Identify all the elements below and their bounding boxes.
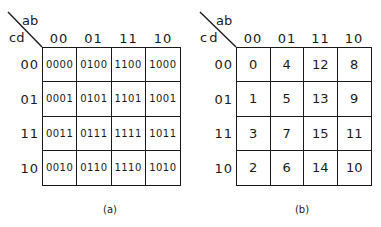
column-header: 00 (236, 32, 270, 45)
map-cell: 6 (271, 151, 305, 185)
row-header: 01 (204, 93, 233, 106)
map-cell: 12 (304, 48, 338, 82)
row-header: 10 (204, 162, 233, 175)
map-cell: 10 (338, 151, 372, 185)
map-cell: 11 (338, 117, 372, 151)
map-cell: 7 (271, 117, 305, 151)
map-cell: 15 (304, 117, 338, 151)
map-cell: 0 (237, 48, 271, 82)
map-cell: 5 (271, 82, 305, 116)
column-variable-label: ab (216, 14, 232, 27)
map-cell: 9 (338, 82, 372, 116)
map-cell: 2 (237, 151, 271, 185)
map-cell: 13 (304, 82, 338, 116)
column-header: 10 (337, 32, 371, 45)
row-header: 00 (204, 58, 233, 71)
map-cell: 3 (237, 117, 271, 151)
map-cell: 1 (237, 82, 271, 116)
row-variable-label: cd (200, 31, 219, 44)
map-cell: 4 (271, 48, 305, 82)
map-cell: 14 (304, 151, 338, 185)
karnaugh-map-b: ab cd 00 01 11 10 00 01 11 10 0 4 12 8 1… (0, 0, 381, 227)
map-cell: 8 (338, 48, 372, 82)
row-header: 11 (204, 127, 233, 140)
column-header: 01 (270, 32, 304, 45)
figure-caption: (b) (287, 204, 317, 215)
column-header: 11 (304, 32, 337, 45)
map-grid: 0 4 12 8 1 5 13 9 3 7 15 11 2 6 14 10 (236, 47, 372, 186)
